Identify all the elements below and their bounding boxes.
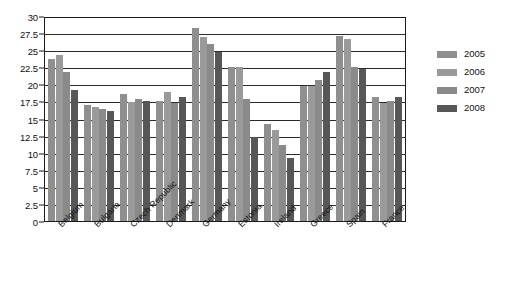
- y-axis-tick-label: 17.5: [20, 97, 38, 108]
- bar: [120, 94, 127, 221]
- bar: [63, 72, 70, 221]
- bar: [359, 69, 366, 221]
- y-axis-tick-label: 10: [28, 148, 38, 159]
- bar: [243, 99, 250, 221]
- y-axis-tick-label: 22.5: [20, 63, 38, 74]
- bar: [380, 103, 387, 221]
- x-axis-labels: BelgiumBulgariaCzech RepublicDenmarkGerm…: [45, 222, 405, 305]
- bar: [372, 97, 379, 222]
- legend-swatch-icon: [437, 105, 457, 112]
- bar: [164, 92, 171, 221]
- y-axis-tick-label: 20: [28, 80, 38, 91]
- y-axis-tick-label: 27.5: [20, 29, 38, 40]
- bar-group: [369, 18, 405, 221]
- bar-group: [117, 18, 153, 221]
- y-axis-tick-label: 2.5: [25, 199, 38, 210]
- y-axis-tick-label: 30: [28, 12, 38, 23]
- y-axis-tick-label: 7.5: [25, 165, 38, 176]
- bar: [92, 107, 99, 221]
- y-axis-tick-label: 12.5: [20, 131, 38, 142]
- bar: [207, 44, 214, 221]
- bar: [192, 28, 199, 221]
- legend-label: 2007: [464, 85, 485, 95]
- bar: [215, 52, 222, 221]
- legend-label: 2006: [464, 67, 485, 77]
- bar: [135, 99, 142, 221]
- bar-group: [81, 18, 117, 221]
- bar: [336, 36, 343, 221]
- plot-area: [44, 17, 406, 222]
- y-axis-tick-label: 5: [33, 182, 38, 193]
- bar: [128, 102, 135, 221]
- bar: [228, 67, 235, 221]
- bar: [236, 67, 243, 221]
- y-axis-tick-label: 15: [28, 114, 38, 125]
- bar: [300, 86, 307, 221]
- y-axis-tick-label: 25: [28, 46, 38, 57]
- bar-group: [45, 18, 81, 221]
- bar: [99, 109, 106, 221]
- legend-swatch-icon: [437, 51, 457, 58]
- bar: [323, 72, 330, 221]
- legend-swatch-icon: [437, 69, 457, 76]
- bar: [344, 39, 351, 221]
- legend-label: 2005: [464, 49, 485, 59]
- bar-chart: 3027.52522.52017.51512.5107.552.50 Belgi…: [0, 0, 508, 305]
- bar-group: [261, 18, 297, 221]
- bar: [48, 59, 55, 221]
- legend-item[interactable]: 2006: [437, 65, 507, 79]
- bar: [171, 103, 178, 221]
- bar-groups: [45, 18, 405, 221]
- bar-group: [297, 18, 333, 221]
- y-axis: 3027.52522.52017.51512.5107.552.50: [0, 17, 44, 222]
- bar: [387, 101, 394, 221]
- bar: [272, 130, 279, 221]
- bar: [351, 67, 358, 221]
- legend-item[interactable]: 2005: [437, 47, 507, 61]
- bar: [308, 86, 315, 221]
- bar: [200, 37, 207, 221]
- bar-group: [225, 18, 261, 221]
- legend-item[interactable]: 2007: [437, 83, 507, 97]
- chart-legend: 2005200620072008: [437, 47, 507, 119]
- bar: [315, 80, 322, 221]
- y-axis-tick-label: 0: [33, 217, 38, 228]
- legend-item[interactable]: 2008: [437, 101, 507, 115]
- legend-label: 2008: [464, 103, 485, 113]
- bar-group: [189, 18, 225, 221]
- bar-group: [333, 18, 369, 221]
- bar: [56, 55, 63, 221]
- bar: [264, 124, 271, 221]
- bar: [84, 105, 91, 221]
- legend-swatch-icon: [437, 87, 457, 94]
